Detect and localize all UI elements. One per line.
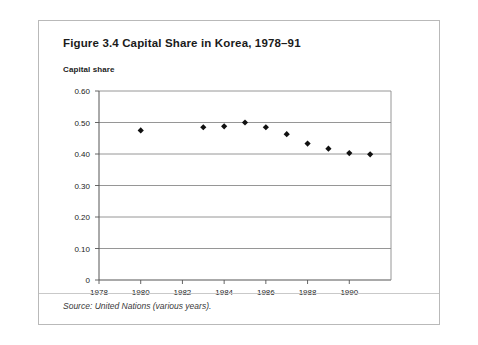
source-divider: [39, 293, 439, 294]
figure-card: Figure 3.4 Capital Share in Korea, 1978–…: [38, 20, 440, 325]
y-tick-label-0: 0: [86, 276, 91, 285]
data-point-1984: [221, 123, 227, 129]
source-note: Source: United Nations (various years).: [63, 301, 211, 311]
data-point-1985: [242, 119, 248, 125]
data-point-1991: [367, 151, 373, 157]
y-tick-label-0.20: 0.20: [74, 213, 90, 222]
capital-share-scatter-chart: 00.100.200.300.400.500.60197819801982198…: [39, 21, 441, 326]
data-point-1988: [304, 141, 310, 147]
y-tick-label-0.30: 0.30: [74, 182, 90, 191]
data-point-1983: [200, 124, 206, 130]
chart-plot-area: 00.100.200.300.400.500.60197819801982198…: [39, 21, 441, 326]
data-point-1980: [138, 127, 144, 133]
y-tick-label-0.50: 0.50: [74, 119, 90, 128]
y-tick-label-0.60: 0.60: [74, 87, 90, 96]
data-point-1986: [263, 124, 269, 130]
y-tick-label-0.10: 0.10: [74, 245, 90, 254]
figure-page: Figure 3.4 Capital Share in Korea, 1978–…: [0, 0, 478, 345]
data-point-1987: [284, 131, 290, 137]
y-tick-label-0.40: 0.40: [74, 150, 90, 159]
data-point-1990: [346, 150, 352, 156]
data-point-1989: [325, 146, 331, 152]
